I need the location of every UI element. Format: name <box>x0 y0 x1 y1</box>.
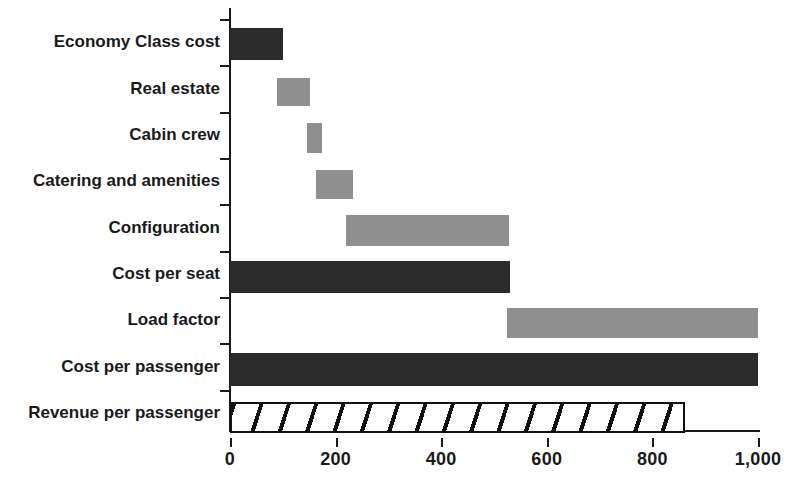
y-axis-tick <box>220 390 230 392</box>
category-label-cost-per-seat: Cost per seat <box>0 264 220 284</box>
category-label-revenue-per-passenger: Revenue per passenger <box>0 403 220 423</box>
category-label-economy-class-cost: Economy Class cost <box>0 32 220 52</box>
category-label-real-estate: Real estate <box>0 79 220 99</box>
y-axis-tick <box>220 343 230 345</box>
x-axis-tick-label-200: 200 <box>320 449 351 470</box>
y-axis-tick <box>220 19 230 21</box>
x-axis-tick-label-1000: 1,000 <box>735 449 782 470</box>
category-label-catering-and-amenities: Catering and amenities <box>0 171 220 191</box>
plot-area: 0 200 400 600 800 1,000 <box>230 8 758 428</box>
x-axis-tick <box>758 438 760 447</box>
y-axis-tick <box>220 112 230 114</box>
bar-configuration <box>346 215 509 246</box>
bar-revenue-per-passenger <box>230 402 685 433</box>
bar-cabin-crew <box>307 123 322 153</box>
x-axis-tick <box>652 438 654 447</box>
category-label-cost-per-passenger: Cost per passenger <box>0 357 220 377</box>
y-axis-tick <box>220 251 230 253</box>
bar-cost-per-passenger <box>230 353 758 386</box>
x-axis-tick <box>547 438 549 447</box>
bar-real-estate <box>277 78 311 106</box>
x-axis-tick <box>441 438 443 447</box>
x-axis-tick-label-0: 0 <box>225 449 235 470</box>
x-axis-tick-label-800: 800 <box>637 449 668 470</box>
waterfall-chart: Economy Class cost Real estate Cabin cre… <box>0 0 791 483</box>
category-label-load-factor: Load factor <box>0 310 220 330</box>
bar-catering-and-amenities <box>316 170 353 199</box>
hatch-pattern-fill <box>232 404 683 431</box>
category-label-configuration: Configuration <box>0 218 220 238</box>
y-axis-tick <box>220 297 230 299</box>
bar-load-factor <box>507 308 758 338</box>
x-axis-tick-label-600: 600 <box>531 449 562 470</box>
bar-economy-class-cost <box>230 28 283 60</box>
y-axis-tick <box>220 204 230 206</box>
y-axis-tick <box>220 65 230 67</box>
y-axis-tick <box>220 158 230 160</box>
x-axis-tick-label-400: 400 <box>426 449 457 470</box>
bar-cost-per-seat <box>230 261 510 293</box>
x-axis-tick <box>230 438 232 447</box>
x-axis-tick <box>336 438 338 447</box>
category-label-cabin-crew: Cabin crew <box>0 125 220 145</box>
